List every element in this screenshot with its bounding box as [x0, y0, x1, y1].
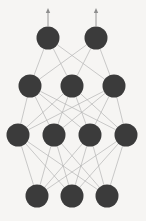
- network-node-output-layer-2: [85, 27, 108, 50]
- network-node-input-layer-3: [96, 185, 119, 208]
- network-node-hidden-layer-2-3: [103, 75, 126, 98]
- network-node-hidden-layer-1-4: [115, 124, 138, 147]
- network-node-hidden-layer-1-3: [79, 124, 102, 147]
- network-node-hidden-layer-2-2: [61, 75, 84, 98]
- network-node-hidden-layer-1-2: [43, 124, 66, 147]
- neural-network-diagram: [0, 0, 146, 221]
- neural-network-canvas: [0, 0, 146, 221]
- network-node-hidden-layer-1-1: [7, 124, 30, 147]
- network-node-input-layer-1: [26, 185, 49, 208]
- network-node-input-layer-2: [61, 185, 84, 208]
- network-node-hidden-layer-2-1: [19, 75, 42, 98]
- network-node-output-layer-1: [37, 27, 60, 50]
